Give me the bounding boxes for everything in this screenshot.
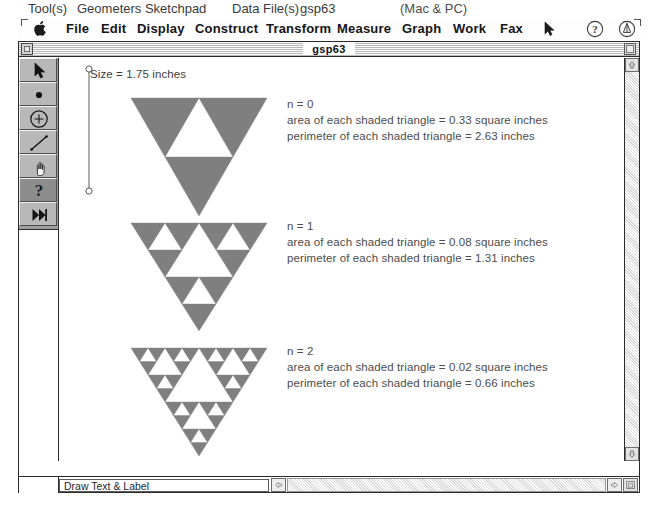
caption-datafile-name: gsp63 bbox=[300, 1, 335, 16]
shaded-triangle bbox=[182, 304, 216, 331]
question-mark-icon: ? bbox=[20, 179, 58, 203]
vertical-scrollbar[interactable] bbox=[624, 58, 639, 461]
compass-circle-tool[interactable] bbox=[19, 106, 57, 130]
document-window: gsp63 bbox=[18, 41, 640, 493]
shaded-triangle bbox=[225, 389, 242, 403]
shaded-triangle bbox=[216, 348, 233, 362]
cursor-icon[interactable] bbox=[543, 21, 557, 37]
shaded-triangle bbox=[199, 429, 216, 443]
size-measurement-label[interactable]: Size = 1.75 inches bbox=[90, 68, 186, 80]
menu-item-display[interactable]: Display bbox=[137, 21, 185, 36]
selection-arrow-tool[interactable] bbox=[19, 58, 57, 82]
sketch-canvas[interactable]: Size = 1.75 inches n = 0 area of each sh… bbox=[59, 58, 624, 461]
shaded-triangle bbox=[165, 348, 182, 362]
caption-app-name: Geometers Sketchpad bbox=[77, 1, 206, 16]
shaded-triangle bbox=[182, 402, 199, 416]
shaded-triangle bbox=[174, 362, 191, 376]
tool-palette: ? bbox=[19, 58, 59, 230]
shaded-triangle bbox=[165, 375, 182, 389]
figure-2-n-label[interactable]: n = 2 bbox=[287, 345, 313, 357]
custom-tool[interactable] bbox=[19, 202, 57, 226]
shaded-triangle bbox=[131, 98, 199, 157]
shaded-triangle bbox=[208, 362, 225, 376]
help-question-icon[interactable]: ? bbox=[586, 20, 604, 38]
menu-item-fax[interactable]: Fax bbox=[500, 21, 523, 36]
figure-0-n-label[interactable]: n = 0 bbox=[287, 98, 313, 110]
hand-script-tool[interactable] bbox=[19, 154, 57, 178]
shaded-triangle bbox=[216, 375, 233, 389]
figure-0-area-text[interactable]: area of each shaded triangle = 0.33 squa… bbox=[287, 114, 548, 126]
shaded-triangle bbox=[216, 402, 233, 416]
shaded-triangle bbox=[250, 348, 267, 362]
status-message-field: Draw Text & Label bbox=[59, 479, 269, 492]
shaded-triangle bbox=[182, 348, 199, 362]
zoom-box-icon[interactable] bbox=[624, 43, 636, 55]
shaded-triangle bbox=[165, 277, 199, 304]
caption-platform: (Mac & PC) bbox=[400, 1, 467, 16]
apple-icon[interactable] bbox=[34, 20, 47, 36]
sierpinski-figure-1[interactable] bbox=[129, 221, 269, 337]
menu-item-file[interactable]: File bbox=[66, 21, 89, 36]
figure-2-area-text[interactable]: area of each shaded triangle = 0.02 squa… bbox=[287, 361, 548, 373]
shaded-triangle bbox=[191, 443, 208, 457]
sierpinski-figure-0[interactable] bbox=[129, 96, 269, 222]
window-title-text: gsp63 bbox=[303, 43, 354, 55]
menu-item-work[interactable]: Work bbox=[453, 21, 486, 36]
shaded-triangle bbox=[216, 250, 250, 277]
sierpinski-figure-2[interactable] bbox=[129, 346, 269, 461]
figure-1-n-label[interactable]: n = 1 bbox=[287, 220, 313, 232]
shaded-triangle bbox=[199, 223, 233, 250]
shaded-triangle bbox=[233, 375, 250, 389]
shaded-triangle bbox=[182, 429, 199, 443]
status-scroll-row: Draw Text & Label bbox=[19, 476, 639, 492]
figure-1-perimeter-text[interactable]: perimeter of each shaded triangle = 1.31… bbox=[287, 252, 535, 264]
shaded-triangle bbox=[233, 223, 267, 250]
menu-item-edit[interactable]: Edit bbox=[101, 21, 126, 36]
shaded-triangle bbox=[165, 157, 233, 216]
caption-tools-label: Tool(s) bbox=[28, 1, 67, 16]
window-body: ? Size = 1.75 inches bbox=[19, 58, 639, 492]
shaded-triangle bbox=[165, 223, 199, 250]
shaded-triangle bbox=[199, 98, 267, 157]
figure-2-perimeter-text[interactable]: perimeter of each shaded triangle = 0.66… bbox=[287, 377, 535, 389]
shaded-triangle bbox=[148, 348, 165, 362]
shaded-triangle bbox=[148, 250, 182, 277]
figure-1-area-text[interactable]: area of each shaded triangle = 0.08 squa… bbox=[287, 236, 548, 248]
menu-item-graph[interactable]: Graph bbox=[402, 21, 441, 36]
text-label-tool[interactable]: ? bbox=[19, 178, 57, 202]
window-title-bar[interactable]: gsp63 bbox=[19, 42, 639, 57]
svg-text:?: ? bbox=[592, 23, 598, 35]
shaded-triangle bbox=[199, 402, 216, 416]
scroll-left-arrow-icon[interactable] bbox=[271, 478, 286, 492]
shaded-triangle bbox=[148, 375, 165, 389]
shaded-triangle bbox=[199, 277, 233, 304]
caption-row: Tool(s) Geometers Sketchpad Data File(s)… bbox=[0, 0, 655, 18]
shaded-triangle bbox=[131, 223, 165, 250]
shaded-triangle bbox=[140, 362, 157, 376]
shaded-triangle bbox=[242, 362, 259, 376]
caption-datafile-label: Data File(s) bbox=[232, 1, 299, 16]
scroll-down-arrow-icon[interactable] bbox=[625, 447, 639, 461]
menu-item-measure[interactable]: Measure bbox=[337, 21, 391, 36]
size-measure-segment[interactable] bbox=[82, 64, 96, 196]
straightedge-tool[interactable] bbox=[19, 130, 57, 154]
menu-bar: File Edit Display Construct Transform Me… bbox=[18, 19, 643, 39]
menu-item-construct[interactable]: Construct bbox=[195, 21, 258, 36]
shaded-triangle bbox=[199, 348, 216, 362]
window-title: gsp63 bbox=[19, 42, 639, 57]
shaded-triangle bbox=[157, 389, 174, 403]
palette-lower-filler bbox=[19, 230, 59, 461]
shaded-triangle bbox=[165, 402, 182, 416]
point-tool[interactable] bbox=[19, 82, 57, 106]
shaded-triangle bbox=[208, 416, 225, 430]
resize-grip-icon[interactable] bbox=[623, 478, 638, 492]
scroll-right-arrow-icon[interactable] bbox=[607, 478, 622, 492]
figure-0-perimeter-text[interactable]: perimeter of each shaded triangle = 2.63… bbox=[287, 130, 535, 142]
scroll-up-arrow-icon[interactable] bbox=[625, 58, 639, 72]
shaded-triangle bbox=[174, 416, 191, 430]
gsp-badge-icon[interactable] bbox=[618, 20, 636, 38]
horizontal-scroll-track[interactable] bbox=[287, 478, 606, 492]
shaded-triangle bbox=[233, 348, 250, 362]
menu-item-transform[interactable]: Transform bbox=[266, 21, 331, 36]
status-left-spacer bbox=[19, 477, 59, 493]
